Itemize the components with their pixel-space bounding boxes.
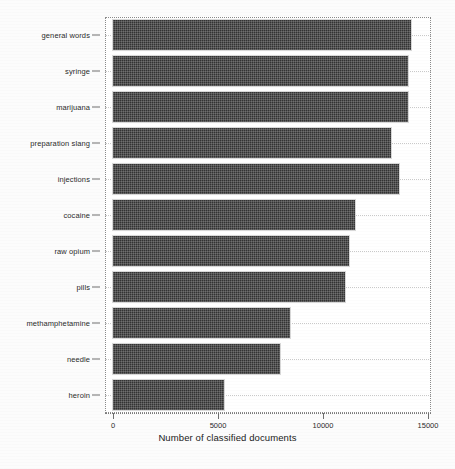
y-axis-label-heroin: heroin bbox=[69, 391, 90, 400]
y-axis-label-marijuana: marijuana bbox=[56, 103, 90, 112]
bar-syringe bbox=[113, 56, 408, 86]
y-tick bbox=[92, 215, 100, 216]
y-tick bbox=[92, 107, 100, 108]
bar-pills bbox=[113, 272, 345, 302]
x-tick bbox=[428, 413, 429, 419]
x-tick bbox=[323, 413, 324, 419]
y-tick bbox=[92, 323, 100, 324]
bar-cocaine bbox=[113, 200, 355, 230]
y-axis-label-pills: pills bbox=[77, 283, 90, 292]
y-axis-labels: general wordssyringemarijuanapreparation… bbox=[0, 17, 100, 413]
y-tick bbox=[92, 287, 100, 288]
x-tick-label-5000: 5000 bbox=[210, 421, 227, 430]
bar-general-words bbox=[113, 20, 411, 50]
bar-heroin bbox=[113, 380, 224, 410]
y-tick bbox=[92, 359, 100, 360]
y-axis-label-cocaine: cocaine bbox=[63, 211, 90, 220]
y-axis-label-methamphetamine: methamphetamine bbox=[26, 319, 90, 328]
y-tick bbox=[92, 395, 100, 396]
bars-layer bbox=[105, 17, 431, 413]
y-tick bbox=[92, 179, 100, 180]
bar-injections bbox=[113, 164, 399, 194]
bar-chart: general wordssyringemarijuanapreparation… bbox=[0, 0, 455, 469]
bar-methamphetamine bbox=[113, 308, 290, 338]
x-tick bbox=[218, 413, 219, 419]
y-axis-label-syringe: syringe bbox=[65, 67, 90, 76]
x-tick bbox=[113, 413, 114, 419]
y-axis-label-preparation-slang: preparation slang bbox=[30, 139, 90, 148]
bar-needle bbox=[113, 344, 280, 374]
bar-marijuana bbox=[113, 92, 408, 122]
y-axis-label-needle: needle bbox=[67, 355, 90, 364]
bar-preparation-slang bbox=[113, 128, 391, 158]
y-tick bbox=[92, 143, 100, 144]
y-tick bbox=[92, 71, 100, 72]
y-axis-label-injections: injections bbox=[58, 175, 90, 184]
x-axis-title: Number of classified documents bbox=[0, 432, 455, 443]
y-axis-label-raw-opium: raw opium bbox=[55, 247, 91, 256]
x-tick-label-0: 0 bbox=[111, 421, 115, 430]
x-tick-label-15000: 15000 bbox=[418, 421, 439, 430]
bar-raw-opium bbox=[113, 236, 349, 266]
y-tick bbox=[92, 251, 100, 252]
x-axis-line bbox=[105, 413, 431, 415]
x-tick-label-10000: 10000 bbox=[313, 421, 334, 430]
y-tick bbox=[92, 35, 100, 36]
y-axis-label-general-words: general words bbox=[42, 31, 90, 40]
